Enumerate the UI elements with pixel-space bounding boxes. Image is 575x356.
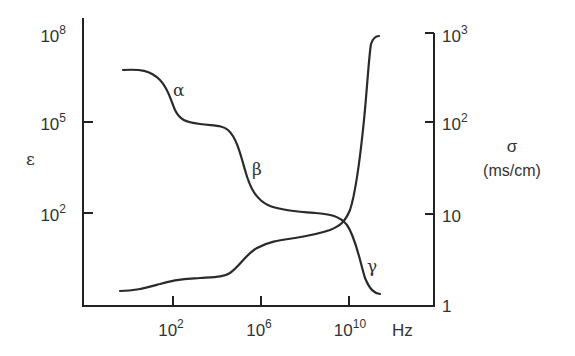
svg-text:102: 102 bbox=[442, 111, 468, 134]
x-tick-labels: 102 106 1010 bbox=[158, 317, 366, 340]
dielectric-dispersion-chart: 108 105 102 ε 103 102 10 1 σ (ms/cm) 102… bbox=[0, 0, 575, 356]
svg-text:103: 103 bbox=[442, 23, 468, 46]
svg-text:10: 10 bbox=[442, 207, 461, 226]
left-tick-label: 10 bbox=[40, 27, 59, 46]
svg-text:105: 105 bbox=[40, 111, 66, 134]
svg-text:1: 1 bbox=[442, 297, 451, 316]
right-axis-label: σ bbox=[507, 137, 518, 156]
svg-text:102: 102 bbox=[40, 202, 66, 225]
gamma-annotation: γ bbox=[367, 256, 377, 276]
svg-text:1010: 1010 bbox=[334, 317, 367, 340]
right-axis-unit: (ms/cm) bbox=[483, 162, 541, 179]
svg-text:108: 108 bbox=[40, 23, 66, 46]
permittivity-curve bbox=[123, 70, 380, 294]
beta-annotation: β bbox=[252, 159, 262, 179]
left-axis-label: ε bbox=[26, 149, 35, 169]
left-tick-label: 10 bbox=[40, 115, 59, 134]
svg-text:102: 102 bbox=[158, 317, 184, 340]
svg-text:106: 106 bbox=[246, 317, 272, 340]
x-axis-unit: Hz bbox=[392, 321, 413, 340]
right-tick-labels: 103 102 10 1 bbox=[442, 23, 468, 316]
left-tick-labels: 108 105 102 bbox=[40, 23, 66, 225]
alpha-annotation: α bbox=[173, 80, 185, 100]
left-tick-label: 10 bbox=[40, 206, 59, 225]
conductivity-curve bbox=[120, 36, 379, 291]
